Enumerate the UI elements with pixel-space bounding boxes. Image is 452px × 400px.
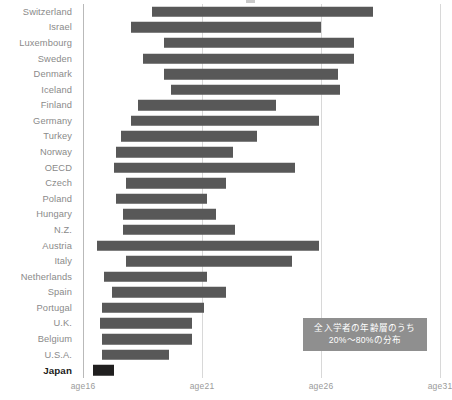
chart-row: Germany [83,113,440,129]
range-bar [126,256,293,267]
row-label-n-z: N.Z. [54,225,72,235]
range-bar [138,100,276,111]
row-label-japan: Japan [43,365,72,376]
row-label-iceland: Iceland [41,85,72,95]
row-label-finland: Finland [41,100,72,110]
chart-row: Japan [83,362,440,378]
row-label-netherlands: Netherlands [21,272,72,282]
legend-line-1: 全入学者の年齢層のうち [314,323,415,335]
x-tick-label-age16: age16 [71,381,96,391]
range-bar [102,303,204,314]
chart-row: N.Z. [83,222,440,238]
row-label-poland: Poland [42,194,72,204]
range-bar [171,84,340,95]
range-bar [102,334,192,345]
chart-row: OECD [83,160,440,176]
row-label-hungary: Hungary [36,209,72,219]
range-bar [121,131,257,142]
range-bar [102,349,169,360]
row-label-luxembourg: Luxembourg [19,38,72,48]
chart-row: Finland [83,98,440,114]
chart-row: Hungary [83,207,440,223]
range-bar [104,271,206,282]
range-bar [131,116,319,127]
row-label-austria: Austria [42,241,72,251]
chart-row: Luxembourg [83,35,440,51]
chart-row: Denmark [83,66,440,82]
range-bar [143,53,355,64]
chart-row: Spain [83,285,440,301]
legend-box: 全入学者の年齢層のうち 20%～80%の分布 [303,318,427,351]
row-label-czech: Czech [45,178,72,188]
range-bar [164,38,354,49]
chart-row: Italy [83,253,440,269]
row-label-belgium: Belgium [38,334,72,344]
x-tick-label-age21: age21 [190,381,215,391]
row-label-sweden: Sweden [38,54,72,64]
row-label-switzerland: Switzerland [23,7,72,17]
top-clipped-artifact [246,0,255,3]
row-label-norway: Norway [40,147,72,157]
row-label-u-s-a: U.S.A. [45,350,72,360]
row-label-oecd: OECD [45,163,72,173]
chart-row: Israel [83,20,440,36]
chart-row: Poland [83,191,440,207]
range-bar [93,365,114,376]
row-label-u-k: U.K. [54,318,72,328]
range-bar [114,162,295,173]
row-label-portugal: Portugal [37,303,72,313]
range-bar [116,194,206,205]
legend-line-2: 20%～80%の分布 [329,335,401,347]
row-label-germany: Germany [33,116,72,126]
row-label-israel: Israel [49,22,72,32]
chart-row: Austria [83,238,440,254]
range-bar [131,22,321,33]
range-bar [126,178,226,189]
chart-row: Portugal [83,300,440,316]
chart-row: Sweden [83,51,440,67]
chart-row: Switzerland [83,4,440,20]
range-bar [152,7,373,18]
chart-row: Czech [83,175,440,191]
row-label-denmark: Denmark [34,69,72,79]
row-label-turkey: Turkey [43,131,72,141]
chart-row: Iceland [83,82,440,98]
range-bar [100,318,193,329]
gridline-age31 [440,4,441,378]
range-bar [164,69,338,80]
row-label-italy: Italy [54,256,72,266]
x-tick-label-age31: age31 [428,381,452,391]
range-bar [112,287,226,298]
range-bar [123,225,235,236]
chart-row: Norway [83,144,440,160]
x-tick-label-age26: age26 [309,381,334,391]
chart-row: Netherlands [83,269,440,285]
range-bar [116,147,233,158]
range-bar [123,209,216,220]
range-bar [97,240,318,251]
chart-row: Turkey [83,129,440,145]
row-label-spain: Spain [48,287,72,297]
